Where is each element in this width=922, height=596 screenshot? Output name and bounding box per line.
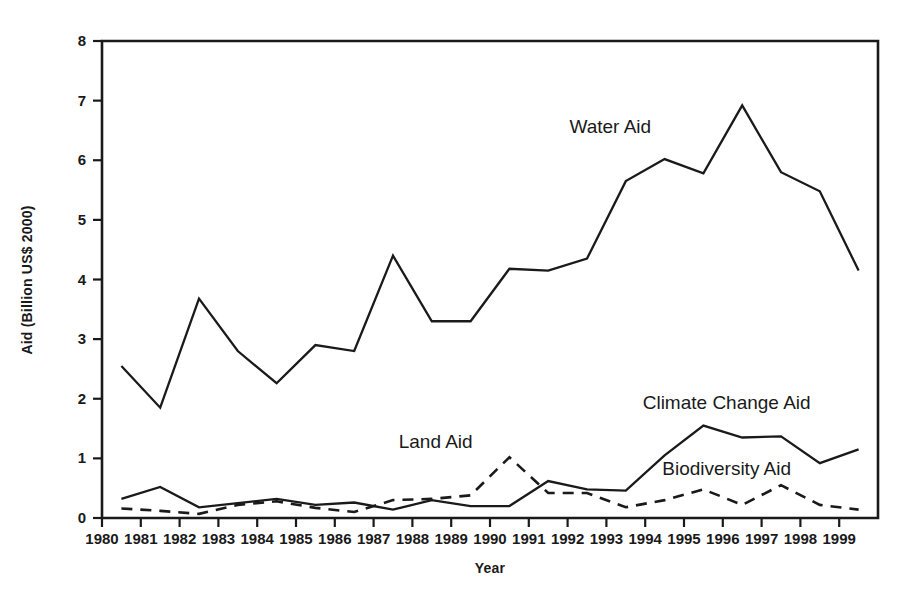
y-axis-title: Aid (Billion US$ 2000) (19, 205, 35, 354)
x-tick-label: 1995 (667, 530, 700, 547)
x-tick-label: 1984 (241, 530, 275, 547)
x-tick-label: 1992 (551, 530, 584, 547)
x-axis-title: Year (475, 560, 506, 576)
series-line-water-aid (121, 105, 858, 407)
x-tick-label: 1986 (318, 530, 351, 547)
series-label-climate-change-aid: Climate Change Aid (643, 392, 811, 413)
x-tick-label: 1982 (163, 530, 196, 547)
x-tick-label: 1988 (396, 530, 429, 547)
x-tick-label: 1998 (784, 530, 817, 547)
series-label-group: Water AidClimate Change AidBiodiversity … (569, 116, 810, 479)
x-axis-ticks: 1980198119821983198419851986198719881989… (85, 518, 856, 547)
y-axis-ticks: 012345678 (78, 32, 102, 526)
series-label-water-aid: Water Aid (569, 116, 651, 137)
x-tick-label: 1991 (512, 530, 545, 547)
line-chart: 012345678 198019811982198319841985198619… (0, 0, 922, 596)
x-tick-label: 1981 (124, 530, 157, 547)
y-tick-label: 2 (78, 390, 86, 407)
x-tick-label: 1994 (629, 530, 663, 547)
x-tick-label: 1980 (85, 530, 118, 547)
series-label-biodiversity-aid: Biodiversity Aid (662, 458, 791, 479)
x-tick-label: 1983 (202, 530, 235, 547)
y-tick-label: 3 (78, 330, 86, 347)
y-tick-label: 5 (78, 211, 86, 228)
x-tick-label: 1989 (435, 530, 468, 547)
annotation-group: Land Aid (399, 431, 473, 452)
annotation-land-aid: Land Aid (399, 431, 473, 452)
y-tick-label: 4 (78, 271, 87, 288)
x-tick-label: 1985 (279, 530, 312, 547)
x-tick-label: 1997 (745, 530, 778, 547)
x-tick-label: 1990 (473, 530, 506, 547)
y-tick-label: 1 (78, 449, 86, 466)
y-tick-label: 0 (78, 509, 86, 526)
x-tick-label: 1996 (706, 530, 739, 547)
plot-frame (102, 41, 878, 518)
x-tick-label: 1999 (823, 530, 856, 547)
y-tick-label: 8 (78, 32, 86, 49)
y-tick-label: 6 (78, 151, 86, 168)
x-tick-label: 1987 (357, 530, 390, 547)
y-tick-label: 7 (78, 92, 86, 109)
x-tick-label: 1993 (590, 530, 623, 547)
data-series-group (121, 105, 858, 513)
chart-figure: 012345678 198019811982198319841985198619… (0, 0, 922, 596)
